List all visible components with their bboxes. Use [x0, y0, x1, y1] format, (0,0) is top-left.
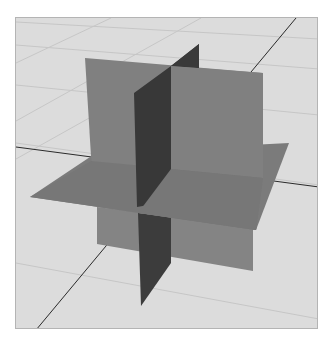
- back-vertical-plane-right: [171, 66, 263, 178]
- scene-canvas: [16, 18, 318, 329]
- 3d-viewport[interactable]: Three intersecting orthogonal planes: [15, 17, 318, 329]
